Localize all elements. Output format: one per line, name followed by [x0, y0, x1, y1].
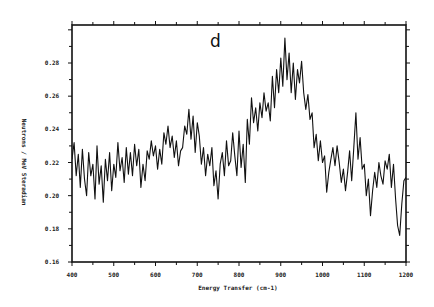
x-axis-title: Energy Transfer (cm-1) [198, 284, 277, 292]
x-tick-label: 900 [275, 271, 286, 278]
series-spectrum-d [72, 38, 406, 235]
panel-label: d [210, 31, 221, 51]
y-axis-title: Neutrons / MeV Steradian [21, 119, 28, 206]
y-tick-label: 0.28 [45, 59, 60, 66]
x-tick-label: 800 [234, 271, 245, 278]
y-tick-label: 0.18 [45, 225, 60, 232]
x-axis-ticks [72, 21, 406, 266]
y-tick-label: 0.20 [45, 192, 60, 199]
y-tick-label: 0.24 [45, 125, 60, 132]
x-tick-label: 1200 [399, 271, 414, 278]
x-tick-label: 500 [108, 271, 119, 278]
x-tick-label: 600 [150, 271, 161, 278]
y-axis-tick-labels: 0.160.180.200.220.240.260.28 [45, 59, 60, 265]
x-tick-label: 1000 [315, 271, 330, 278]
x-axis-tick-labels: 400500600700800900100011001200 [67, 271, 414, 278]
chart: 400500600700800900100011001200 0.160.180… [0, 0, 434, 307]
y-tick-label: 0.26 [45, 92, 60, 99]
y-tick-label: 0.22 [45, 159, 60, 166]
x-tick-label: 400 [67, 271, 78, 278]
plot-frame [72, 25, 406, 262]
y-axis-ticks [68, 30, 410, 262]
y-tick-label: 0.16 [45, 258, 60, 265]
x-tick-label: 1100 [357, 271, 372, 278]
x-tick-label: 700 [192, 271, 203, 278]
